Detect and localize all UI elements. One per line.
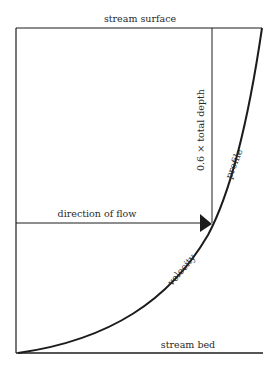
depth-label: 0.6 × total depth — [195, 89, 206, 171]
stream-bed-label: stream bed — [161, 339, 215, 350]
velocity-profile-curve — [18, 28, 262, 353]
flow-direction-label: direction of flow — [58, 208, 137, 219]
profile-label: profile — [223, 147, 245, 181]
velocity-profile-diagram: stream surface stream bed direction of f… — [0, 0, 277, 372]
stream-surface-label: stream surface — [104, 13, 177, 24]
velocity-label: velocity — [164, 251, 197, 288]
